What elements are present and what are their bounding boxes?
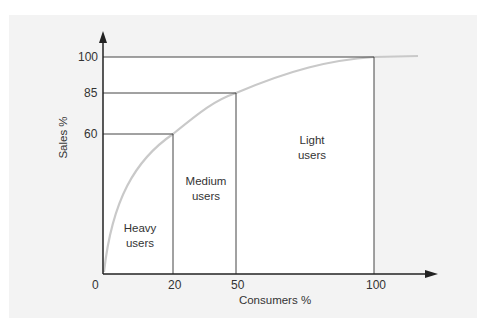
y-tick-60: 60 [84,127,97,141]
region-light-line1: Light [292,133,332,148]
x-tick-0: 0 [92,278,99,292]
region-light-line2: users [292,148,332,163]
x-tick-50: 50 [231,278,244,292]
y-tick-100: 100 [78,50,98,64]
x-tick-20: 20 [168,278,181,292]
region-heavy-line1: Heavy [118,221,162,236]
region-medium-users: Medium users [183,174,229,204]
y-axis-label: Sales % [56,113,71,163]
region-light-users: Light users [292,133,332,163]
x-axis-arrow-icon [425,270,438,278]
x-tick-100: 100 [366,278,386,292]
region-heavy-line2: users [118,236,162,251]
region-medium-line2: users [183,189,229,204]
y-tick-85: 85 [84,86,97,100]
y-axis-arrow-icon [99,31,107,43]
chart-svg [0,0,499,332]
region-medium-line1: Medium [183,174,229,189]
region-heavy-users: Heavy users [118,221,162,251]
x-axis-label: Consumers % [230,293,320,308]
